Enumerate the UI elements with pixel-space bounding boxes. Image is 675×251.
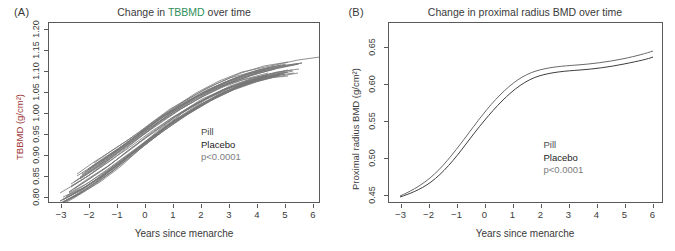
panel-b: (B) Change in proximal radius BMD over t… <box>338 0 675 251</box>
panel-b-xtick-1: −2 <box>419 209 439 220</box>
panel-a-title-suffix: over time <box>205 6 251 18</box>
panel-b-legend-pill: Pill <box>544 139 584 152</box>
panel-b-x-axis-label: Years since menarche <box>388 228 663 239</box>
panel-b-plot-area: Pill Placebo p<0.0001 <box>388 22 663 203</box>
panel-a-plot-area: Pill Placebo p<0.0001 <box>48 22 320 203</box>
panel-b-ytick-1: 0.50 <box>367 145 377 171</box>
panel-a-xtick-mark-8 <box>285 204 286 208</box>
panel-a-xtick-4: 1 <box>163 209 183 220</box>
panel-a-xtick-mark-9 <box>313 204 314 208</box>
panel-a-xtick-mark-0 <box>61 204 62 208</box>
panel-a-xtick-mark-4 <box>173 204 174 208</box>
panel-b-xtick-5: 2 <box>531 209 551 220</box>
panel-a-xtick-8: 5 <box>275 209 295 220</box>
panel-b-xtick-9: 6 <box>643 209 663 220</box>
panel-b-xtick-3: 0 <box>475 209 495 220</box>
panel-a-title-accent: TBBMD <box>168 6 205 18</box>
panel-a-xtick-9: 6 <box>303 209 323 220</box>
panel-a-xtick-mark-2 <box>117 204 118 208</box>
panel-b-xtick-4: 1 <box>503 209 523 220</box>
panel-b-ytick-0: 0.45 <box>367 182 377 208</box>
panel-b-title: Change in proximal radius BMD over time <box>388 6 663 18</box>
panel-b-xtick-mark-9 <box>653 204 654 208</box>
panel-b-xtick-6: 3 <box>559 209 579 220</box>
panel-b-xtick-mark-5 <box>541 204 542 208</box>
panel-a-xtick-0: −3 <box>51 209 71 220</box>
panel-a-legend: Pill Placebo p<0.0001 <box>201 126 241 164</box>
panel-b-xtick-mark-3 <box>485 204 486 208</box>
panel-b-xtick-mark-6 <box>569 204 570 208</box>
panel-a: (A) Change in TBBMD over time TBBMD (g/c… <box>0 0 338 251</box>
panel-a-title-prefix: Change in <box>117 6 168 18</box>
figure-root: (A) Change in TBBMD over time TBBMD (g/c… <box>0 0 675 251</box>
panel-b-ytick-4: 0.65 <box>367 34 377 60</box>
panel-a-legend-pvalue: p<0.0001 <box>201 151 241 164</box>
panel-a-tag: (A) <box>14 6 29 18</box>
panel-b-xtick-0: −3 <box>391 209 411 220</box>
panel-b-ytick-2: 0.55 <box>367 108 377 134</box>
panel-b-xtick-mark-0 <box>401 204 402 208</box>
panel-b-fitted-curves <box>389 23 663 203</box>
panel-b-curve-placebo <box>400 57 653 197</box>
panel-b-xtick-mark-1 <box>429 204 430 208</box>
panel-a-xtick-3: 0 <box>135 209 155 220</box>
panel-b-xtick-2: −1 <box>447 209 467 220</box>
panel-a-ytick-8: 1.20 <box>31 16 41 42</box>
panel-a-x-axis-label: Years since menarche <box>48 228 320 239</box>
panel-b-legend: Pill Placebo p<0.0001 <box>544 139 584 177</box>
panel-a-xtick-mark-6 <box>229 204 230 208</box>
panel-a-spaghetti-lines <box>49 23 320 203</box>
panel-b-xtick-mark-2 <box>457 204 458 208</box>
panel-b-legend-placebo: Placebo <box>544 152 584 165</box>
panel-a-xtick-7: 4 <box>247 209 267 220</box>
panel-a-y-axis-label: TBBMD (g/cm²) <box>14 94 25 160</box>
panel-a-xtick-mark-5 <box>201 204 202 208</box>
panel-b-xtick-mark-7 <box>597 204 598 208</box>
panel-b-y-axis-label: Proximal radius BMD (g/cm²) <box>350 68 361 190</box>
panel-a-legend-pill: Pill <box>201 126 241 139</box>
panel-a-xtick-2: −1 <box>107 209 127 220</box>
panel-a-xtick-mark-3 <box>145 204 146 208</box>
panel-b-ytick-3: 0.60 <box>367 71 377 97</box>
panel-b-tag: (B) <box>349 6 364 18</box>
panel-a-xtick-5: 2 <box>191 209 211 220</box>
panel-b-xtick-mark-4 <box>513 204 514 208</box>
panel-a-xtick-6: 3 <box>219 209 239 220</box>
panel-a-xtick-mark-7 <box>257 204 258 208</box>
panel-b-curve-pill <box>400 51 653 196</box>
panel-a-title: Change in TBBMD over time <box>48 6 320 18</box>
panel-a-legend-placebo: Placebo <box>201 139 241 152</box>
panel-b-xtick-8: 5 <box>615 209 635 220</box>
panel-b-legend-pvalue: p<0.0001 <box>544 164 584 177</box>
panel-a-xtick-1: −2 <box>79 209 99 220</box>
panel-b-xtick-mark-8 <box>625 204 626 208</box>
panel-a-xtick-mark-1 <box>89 204 90 208</box>
panel-b-xtick-7: 4 <box>587 209 607 220</box>
